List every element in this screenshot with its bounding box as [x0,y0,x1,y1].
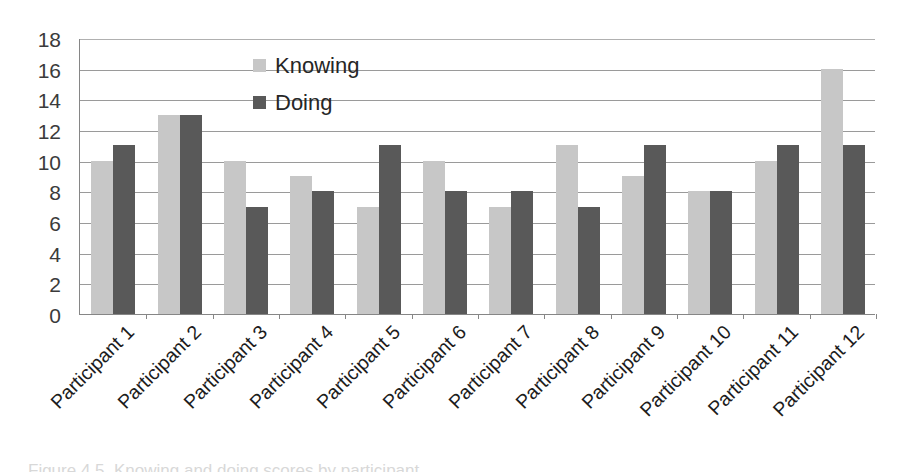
legend-swatch-icon-knowing [253,59,266,72]
x-axis-labels: Participant 1Participant 2Participant 3P… [79,318,875,438]
bar-doing-4 [312,191,334,314]
y-axis-tick-12: 12 [38,121,61,142]
y-axis-tick-16: 16 [38,59,61,80]
legend-label-knowing: Knowing [275,55,359,77]
y-axis-tick-2: 2 [49,274,61,295]
bar-knowing-2 [158,115,180,314]
bar-knowing-11 [755,161,777,314]
bar-doing-7 [511,191,533,314]
y-axis-tick-8: 8 [49,182,61,203]
bar-doing-2 [180,115,202,314]
y-axis-tick-6: 6 [49,213,61,234]
bar-knowing-6 [423,161,445,314]
chart-legend: KnowingDoing [253,47,359,121]
legend-swatch-icon-doing [253,96,266,109]
bar-doing-11 [777,145,799,314]
y-axis-tick-14: 14 [38,90,61,111]
bar-doing-5 [379,145,401,314]
bar-knowing-1 [91,161,113,314]
bar-knowing-4 [290,176,312,314]
bar-doing-9 [644,145,666,314]
bar-doing-10 [710,191,732,314]
x-axis-tick-12 [876,314,877,319]
caption-fragment: Figure 4.5. Knowing and doing scores by … [28,462,548,472]
y-axis-tick-18: 18 [38,29,61,50]
bar-knowing-7 [489,207,511,314]
bar-knowing-12 [821,69,843,314]
bar-doing-1 [113,145,135,314]
bars-layer [80,39,875,314]
bar-knowing-9 [622,176,644,314]
bar-doing-12 [843,145,865,314]
legend-item-knowing: Knowing [253,47,359,84]
bar-knowing-10 [688,191,710,314]
y-axis-labels: 181614121086420 [0,39,70,315]
legend-label-doing: Doing [275,92,332,114]
bar-doing-6 [445,191,467,314]
y-axis-tick-0: 0 [49,305,61,326]
bar-knowing-5 [357,207,379,314]
y-axis-tick-4: 4 [49,243,61,264]
bar-chart: 181614121086420 KnowingDoing Participant… [0,0,903,472]
legend-item-doing: Doing [253,84,359,121]
bar-doing-3 [246,207,268,314]
bar-knowing-8 [556,145,578,314]
bar-knowing-3 [224,161,246,314]
plot-area [79,39,875,315]
y-axis-tick-10: 10 [38,151,61,172]
bar-doing-8 [578,207,600,314]
